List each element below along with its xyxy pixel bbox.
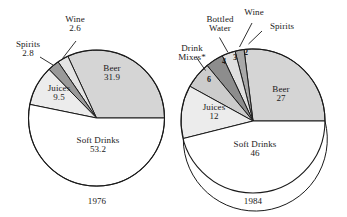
- label-spirits-1976-value: 2.8: [2, 49, 54, 58]
- label-beer-1976-value: 31.9: [86, 73, 138, 82]
- label-spirits-1984-value: 2: [240, 49, 252, 57]
- label-bottled-water-1984: Bottled Water: [194, 15, 246, 34]
- label-wine-1976-value: 2.6: [52, 24, 98, 33]
- label-soft-drinks-1984: Soft Drinks 46: [217, 140, 293, 159]
- label-bottled-water-1984-name-line2: Water: [194, 24, 246, 33]
- pie-chart-figure: Beer 31.9 Soft Drinks 53.2 Juices 9.5 Sp…: [0, 0, 347, 217]
- label-wine-1976: Wine 2.6: [52, 15, 98, 34]
- label-juices-1984: Juices 12: [190, 103, 238, 122]
- label-drink-mixes-1984: Drink Mixes*: [166, 44, 218, 63]
- label-spirits-1984: Spirits: [259, 22, 305, 31]
- leader-spirits-1984: [249, 31, 263, 44]
- year-label-1976: 1976: [72, 197, 122, 206]
- label-drink-mixes-1984-name-line2: Mixes*: [166, 53, 218, 62]
- label-spirits-1976: Spirits 2.8: [2, 40, 54, 59]
- label-soft-drinks-1984-value: 46: [217, 149, 293, 158]
- label-wine-1984: Wine: [234, 8, 274, 17]
- year-label-1984: 1984: [228, 197, 278, 206]
- label-beer-1984-value: 27: [257, 94, 305, 103]
- label-juices-1976: Juices 9.5: [35, 84, 83, 103]
- label-juices-1984-value: 12: [190, 112, 238, 121]
- label-soft-drinks-1976-value: 53.2: [60, 145, 136, 154]
- label-drink-mixes-1984-value: 6: [202, 76, 216, 84]
- label-wine-1984-name: Wine: [234, 8, 274, 17]
- label-beer-1976: Beer 31.9: [86, 64, 138, 83]
- label-soft-drinks-1976: Soft Drinks 53.2: [60, 136, 136, 155]
- label-spirits-1984-name: Spirits: [259, 22, 305, 31]
- label-juices-1976-value: 9.5: [35, 93, 83, 102]
- leader-bottled-water-1984: [220, 38, 229, 53]
- label-beer-1984: Beer 27: [257, 85, 305, 104]
- pie-1976: [29, 41, 165, 186]
